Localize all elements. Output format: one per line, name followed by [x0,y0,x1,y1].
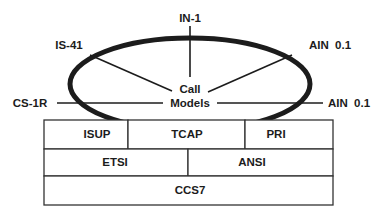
call-models-diagram: IN-1 IS-41 AIN 0.1 CS-1R AIN 0.1 Call Mo… [0,0,377,218]
hub-label-models: Models [170,97,210,109]
label-cs1r: CS-1R [13,97,48,109]
hub-label-call: Call [179,83,200,95]
cell-pri [245,120,333,149]
cell-label-isup: ISUP [84,128,111,140]
label-ain-upper: AIN 0.1 [309,39,352,51]
cell-label-etsi: ETSI [102,156,128,168]
label-in1: IN-1 [179,12,201,24]
label-is41: IS-41 [55,39,83,51]
cell-label-tcap: TCAP [171,128,203,140]
protocol-stack: ISUP TCAP PRI ETSI ANSI CCS7 [44,120,333,205]
cell-label-ansi: ANSI [238,156,265,168]
cell-label-ccs7: CCS7 [175,184,206,196]
cell-label-pri: PRI [266,128,285,140]
label-ain-right: AIN 0.1 [328,97,371,109]
spoke-ain-upper [208,55,292,92]
spoke-is41 [90,55,172,91]
